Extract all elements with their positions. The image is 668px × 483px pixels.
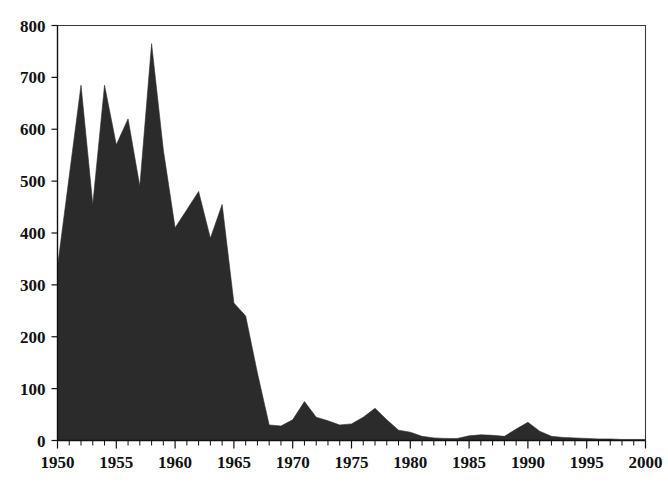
x-tick-label: 1995 — [570, 453, 604, 472]
x-tick-label: 1990 — [511, 453, 545, 472]
x-tick-label: 1960 — [158, 453, 192, 472]
x-tick-label: 1965 — [217, 453, 251, 472]
y-tick-label: 800 — [20, 17, 46, 36]
x-tick-label: 1955 — [99, 453, 133, 472]
x-tick-label: 1950 — [41, 453, 75, 472]
x-tick-label: 1975 — [335, 453, 369, 472]
chart-container: 0100200300400500600700800 19501955196019… — [0, 0, 668, 483]
y-axis-tickmarks — [52, 26, 58, 441]
x-axis-tickmarks — [58, 441, 646, 449]
x-tick-label: 1985 — [452, 453, 486, 472]
x-axis: 1950195519601965197019751980198519901995… — [41, 441, 663, 472]
x-tick-label: 2000 — [629, 453, 663, 472]
x-tick-label: 1970 — [276, 453, 310, 472]
y-tick-label: 100 — [20, 380, 46, 399]
y-tick-label: 500 — [20, 172, 46, 191]
x-axis-tick-labels: 1950195519601965197019751980198519901995… — [41, 453, 663, 472]
x-tick-label: 1980 — [393, 453, 427, 472]
area-series-group — [58, 44, 646, 441]
y-axis-tick-labels: 0100200300400500600700800 — [20, 17, 46, 451]
y-tick-label: 200 — [20, 328, 46, 347]
y-axis: 0100200300400500600700800 — [20, 17, 58, 451]
area-series-fill — [58, 44, 646, 441]
y-tick-label: 300 — [20, 276, 46, 295]
area-chart: 0100200300400500600700800 19501955196019… — [0, 0, 668, 483]
y-tick-label: 0 — [37, 432, 46, 451]
y-tick-label: 600 — [20, 120, 46, 139]
y-tick-label: 400 — [20, 224, 46, 243]
y-tick-label: 700 — [20, 68, 46, 87]
